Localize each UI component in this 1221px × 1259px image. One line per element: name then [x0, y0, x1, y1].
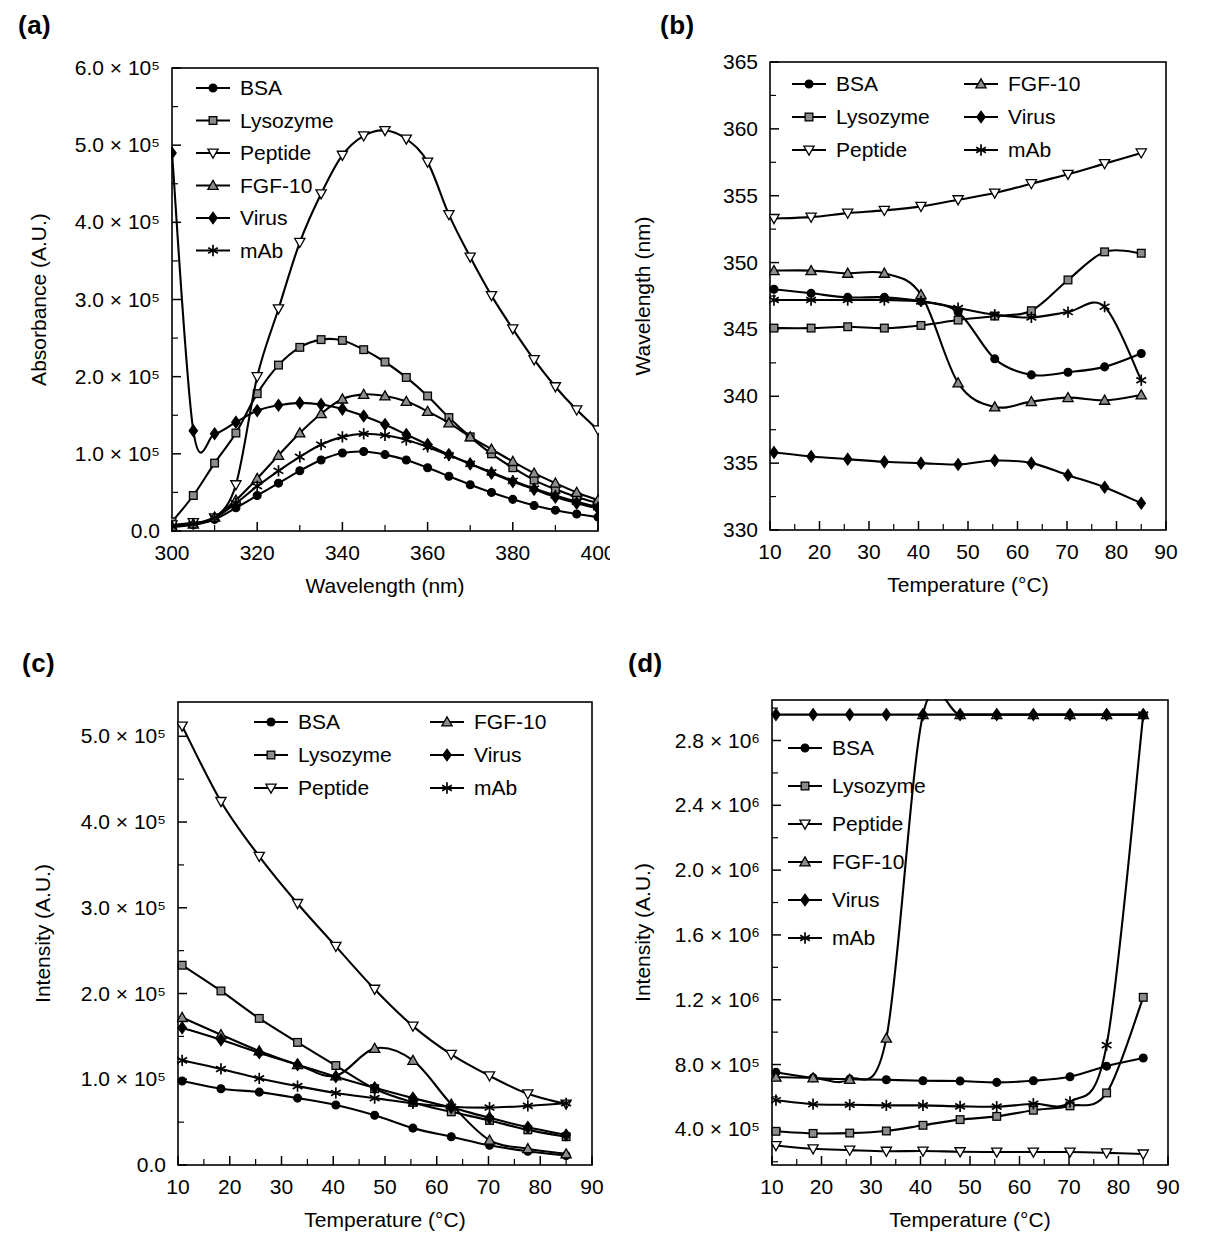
- svg-text:4.0 × 10⁵: 4.0 × 10⁵: [81, 810, 166, 833]
- svg-text:FGF-10: FGF-10: [240, 174, 312, 197]
- series-peptide: [769, 149, 1147, 224]
- series-lysozyme: [772, 993, 1147, 1137]
- series-peptide: [771, 1142, 1149, 1160]
- svg-text:BSA: BSA: [836, 72, 878, 95]
- svg-text:340: 340: [325, 541, 360, 564]
- svg-text:330: 330: [723, 518, 758, 541]
- svg-text:0.0: 0.0: [131, 519, 160, 542]
- svg-text:60: 60: [1006, 540, 1029, 563]
- svg-text:Intensity (A.U.): Intensity (A.U.): [631, 863, 654, 1002]
- svg-text:3.0 × 10⁵: 3.0 × 10⁵: [81, 896, 166, 919]
- svg-text:60: 60: [425, 1175, 448, 1198]
- svg-text:Lysozyme: Lysozyme: [240, 109, 334, 132]
- svg-text:80: 80: [529, 1175, 552, 1198]
- y-axis: 4.0 × 10⁵8.0 × 10⁵1.2 × 10⁶1.6 × 10⁶2.0 …: [631, 708, 781, 1162]
- svg-text:FGF-10: FGF-10: [832, 850, 904, 873]
- svg-text:2.4 × 10⁶: 2.4 × 10⁶: [675, 793, 760, 816]
- svg-text:320: 320: [240, 541, 275, 564]
- svg-text:70: 70: [1055, 540, 1078, 563]
- svg-text:5.0 × 10⁵: 5.0 × 10⁵: [81, 724, 166, 747]
- panel-b-plot: 102030405060708090Temperature (°C)330335…: [610, 0, 1221, 630]
- svg-text:40: 40: [909, 1175, 932, 1198]
- legend: BSAFGF-10LysozymeVirusPeptidemAb: [792, 72, 1080, 161]
- svg-text:10: 10: [760, 1175, 783, 1198]
- panel-a-plot: 300320340360380400Wavelength (nm)0.01.0 …: [0, 0, 610, 630]
- svg-text:70: 70: [1057, 1175, 1080, 1198]
- x-axis: 102030405060708090Temperature (°C): [758, 521, 1177, 596]
- svg-text:Wavelength (nm): Wavelength (nm): [631, 216, 654, 375]
- svg-text:FGF-10: FGF-10: [1008, 72, 1080, 95]
- svg-text:Lysozyme: Lysozyme: [832, 774, 926, 797]
- svg-text:BSA: BSA: [240, 76, 282, 99]
- y-axis: 330335340345350355360365Wavelength (nm): [631, 50, 779, 541]
- svg-text:70: 70: [477, 1175, 500, 1198]
- svg-text:90: 90: [1154, 540, 1177, 563]
- series-fgf-10: [771, 691, 1149, 1084]
- y-axis: 0.01.0 × 10⁵2.0 × 10⁵3.0 × 10⁵4.0 × 10⁵5…: [27, 56, 181, 542]
- svg-text:80: 80: [1107, 1175, 1130, 1198]
- svg-text:Temperature (°C): Temperature (°C): [304, 1208, 465, 1231]
- series-group: [771, 691, 1149, 1159]
- series-lysozyme: [770, 248, 1145, 332]
- svg-text:Lysozyme: Lysozyme: [836, 105, 930, 128]
- series-virus: [168, 147, 602, 515]
- svg-text:Virus: Virus: [240, 206, 287, 229]
- svg-text:8.0 × 10⁵: 8.0 × 10⁵: [675, 1053, 760, 1076]
- svg-text:50: 50: [373, 1175, 396, 1198]
- series-peptide: [167, 127, 603, 530]
- svg-text:80: 80: [1105, 540, 1128, 563]
- svg-text:20: 20: [810, 1175, 833, 1198]
- x-axis: 102030405060708090Temperature (°C): [166, 1156, 603, 1231]
- svg-text:Peptide: Peptide: [836, 138, 907, 161]
- svg-text:mAb: mAb: [240, 239, 283, 262]
- svg-text:Peptide: Peptide: [240, 141, 311, 164]
- series-fgf-10: [769, 265, 1147, 410]
- panel-c-plot: 102030405060708090Temperature (°C)0.01.0…: [0, 630, 610, 1259]
- svg-text:BSA: BSA: [832, 736, 874, 759]
- svg-text:2.0 × 10⁵: 2.0 × 10⁵: [75, 365, 160, 388]
- svg-text:Temperature (°C): Temperature (°C): [889, 1208, 1050, 1231]
- svg-text:mAb: mAb: [474, 776, 517, 799]
- series-virus: [772, 709, 1148, 721]
- svg-text:30: 30: [270, 1175, 293, 1198]
- x-axis: 300320340360380400Wavelength (nm): [154, 522, 610, 597]
- series-group: [167, 127, 603, 532]
- svg-text:355: 355: [723, 184, 758, 207]
- svg-text:90: 90: [580, 1175, 603, 1198]
- svg-text:2.0 × 10⁶: 2.0 × 10⁶: [675, 858, 760, 881]
- svg-text:60: 60: [1008, 1175, 1031, 1198]
- svg-text:300: 300: [154, 541, 189, 564]
- svg-text:20: 20: [808, 540, 831, 563]
- svg-text:4.0 × 10⁵: 4.0 × 10⁵: [675, 1117, 760, 1140]
- svg-text:40: 40: [907, 540, 930, 563]
- series-group: [769, 149, 1147, 509]
- svg-text:2.8 × 10⁶: 2.8 × 10⁶: [675, 729, 760, 752]
- svg-text:BSA: BSA: [298, 710, 340, 733]
- svg-text:30: 30: [859, 1175, 882, 1198]
- panel-a: (a) 300320340360380400Wavelength (nm)0.0…: [0, 0, 610, 630]
- svg-text:350: 350: [723, 251, 758, 274]
- svg-text:345: 345: [723, 317, 758, 340]
- svg-text:50: 50: [956, 540, 979, 563]
- y-axis: 0.01.0 × 10⁵2.0 × 10⁵3.0 × 10⁵4.0 × 10⁵5…: [31, 724, 187, 1176]
- svg-text:Virus: Virus: [474, 743, 521, 766]
- svg-text:1.0 × 10⁵: 1.0 × 10⁵: [81, 1067, 166, 1090]
- svg-text:20: 20: [218, 1175, 241, 1198]
- svg-text:Virus: Virus: [1008, 105, 1055, 128]
- svg-text:50: 50: [958, 1175, 981, 1198]
- svg-text:0.0: 0.0: [137, 1153, 166, 1176]
- legend: BSAFGF-10LysozymeVirusPeptidemAb: [254, 710, 546, 799]
- svg-text:4.0 × 10⁵: 4.0 × 10⁵: [75, 210, 160, 233]
- svg-text:Virus: Virus: [832, 888, 879, 911]
- panel-d-plot: 102030405060708090Temperature (°C)4.0 × …: [610, 630, 1221, 1259]
- svg-text:90: 90: [1156, 1175, 1179, 1198]
- svg-text:30: 30: [857, 540, 880, 563]
- plot-frame: [172, 68, 598, 531]
- svg-text:mAb: mAb: [1008, 138, 1051, 161]
- svg-text:5.0 × 10⁵: 5.0 × 10⁵: [75, 133, 160, 156]
- series-virus: [770, 447, 1146, 510]
- series-virus: [178, 1022, 570, 1141]
- svg-text:1.2 × 10⁶: 1.2 × 10⁶: [675, 988, 760, 1011]
- svg-text:1.0 × 10⁵: 1.0 × 10⁵: [75, 442, 160, 465]
- svg-text:FGF-10: FGF-10: [474, 710, 546, 733]
